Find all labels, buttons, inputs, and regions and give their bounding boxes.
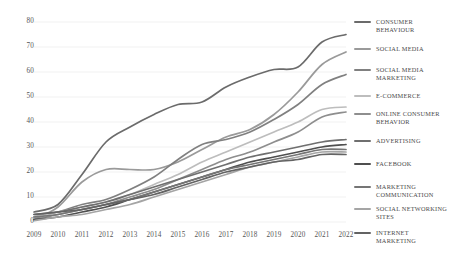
legend-item[interactable]: ONLINE CONSUMER BEHAVIOR: [354, 110, 449, 126]
legend-color-swatch: [354, 69, 371, 71]
y-axis-tick-label: 50: [8, 93, 34, 100]
legend-item[interactable]: SOCIAL MEDIA MARKETING: [354, 66, 449, 82]
legend-color-swatch: [354, 186, 371, 188]
legend-item[interactable]: INTERNET MARKETING: [354, 229, 449, 245]
legend-item-label: E-COMMERCE: [376, 92, 449, 100]
legend-color-swatch: [354, 140, 371, 142]
legend-item-label: INTERNET MARKETING: [376, 229, 449, 245]
y-axis-tick-label: 80: [8, 18, 34, 25]
y-axis-tick-label: 0: [8, 218, 34, 225]
legend-item[interactable]: SOCIAL MEDIA: [354, 45, 449, 53]
line-chart: 01020304050607080 2009201020112012201320…: [0, 0, 449, 255]
x-axis: 2009201020112012201320142015201620172018…: [0, 231, 352, 249]
legend-item[interactable]: E-COMMERCE: [354, 92, 449, 100]
legend-color-swatch: [354, 232, 371, 234]
y-axis-tick-label: 30: [8, 143, 34, 150]
legend-item[interactable]: ADVERTISING: [354, 137, 449, 145]
legend-color-swatch: [354, 95, 371, 97]
legend-item-label: SOCIAL MEDIA: [376, 45, 449, 53]
series-line: [34, 52, 346, 220]
y-axis-tick-label: 20: [8, 168, 34, 175]
series-lines: [34, 35, 346, 221]
legend-item-label: SOCIAL NETWORKING SITES: [376, 205, 449, 221]
legend-item[interactable]: FACEBOOK: [354, 160, 449, 168]
chart-legend: CONSUMER BEHAVIOURSOCIAL MEDIASOCIAL MED…: [354, 0, 449, 255]
y-axis: 01020304050607080: [0, 0, 34, 255]
legend-item[interactable]: MARKETING COMMUNICATION: [354, 183, 449, 199]
legend-item-label: ONLINE CONSUMER BEHAVIOR: [376, 110, 449, 126]
legend-color-swatch: [354, 48, 371, 50]
plot-area: 01020304050607080 2009201020112012201320…: [0, 0, 352, 255]
legend-item-label: ADVERTISING: [376, 137, 449, 145]
series-line: [34, 75, 346, 218]
y-axis-tick-label: 60: [8, 68, 34, 75]
y-axis-tick-label: 40: [8, 118, 34, 125]
legend-item-label: MARKETING COMMUNICATION: [376, 183, 449, 199]
y-axis-tick-label: 70: [8, 43, 34, 50]
y-axis-tick-label: 10: [8, 193, 34, 200]
legend-item[interactable]: SOCIAL NETWORKING SITES: [354, 205, 449, 221]
legend-color-swatch: [354, 208, 371, 210]
legend-color-swatch: [354, 21, 371, 23]
legend-item-label: SOCIAL MEDIA MARKETING: [376, 66, 449, 82]
legend-color-swatch: [354, 113, 371, 115]
legend-color-swatch: [354, 163, 371, 165]
series-line: [34, 112, 346, 220]
legend-item[interactable]: CONSUMER BEHAVIOUR: [354, 18, 449, 34]
chart-canvas: [0, 0, 352, 255]
legend-item-label: FACEBOOK: [376, 160, 449, 168]
legend-item-label: CONSUMER BEHAVIOUR: [376, 18, 449, 34]
series-line: [34, 107, 346, 217]
